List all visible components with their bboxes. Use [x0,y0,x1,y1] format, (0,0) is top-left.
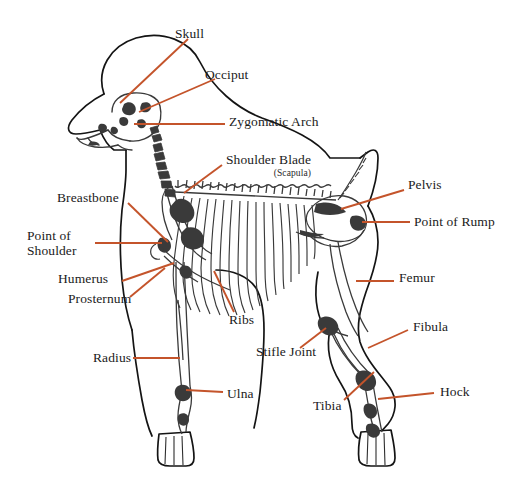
label-stifle-joint: Stifle Joint [256,345,316,359]
label-radius: Radius [93,351,131,365]
label-shoulder-blade-sub: (Scapula) [226,168,311,179]
label-breastbone: Breastbone [57,191,119,205]
dog-skeleton-diagram: Skull Occiput Zygomatic Arch Shoulder Bl… [0,0,514,480]
label-layer: Skull Occiput Zygomatic Arch Shoulder Bl… [0,0,514,480]
label-point-of-shoulder-line2: Shoulder [27,243,77,258]
label-point-of-rump: Point of Rump [414,215,495,229]
label-point-of-shoulder: Point of Shoulder [27,229,93,258]
label-tibia: Tibia [313,399,342,413]
label-point-of-shoulder-line1: Point of [27,228,71,243]
label-ribs: Ribs [229,313,254,327]
label-prosternum: Prosternum [68,292,131,306]
label-occiput: Occiput [205,68,248,82]
label-hock: Hock [440,385,470,399]
label-fibula: Fibula [413,320,448,334]
label-pelvis: Pelvis [408,178,442,192]
label-shoulder-blade-main: Shoulder Blade [226,152,311,167]
label-ulna: Ulna [227,387,254,401]
label-humerus: Humerus [58,272,108,286]
label-skull: Skull [175,27,204,41]
label-shoulder-blade: Shoulder Blade (Scapula) [226,153,311,179]
label-femur: Femur [399,271,435,285]
label-zygomatic-arch: Zygomatic Arch [229,115,319,129]
